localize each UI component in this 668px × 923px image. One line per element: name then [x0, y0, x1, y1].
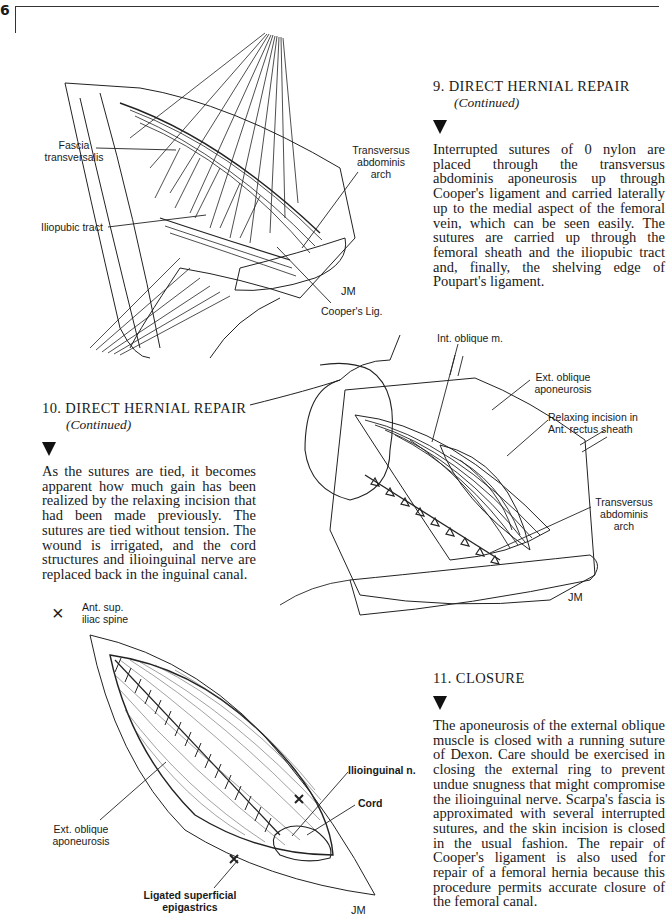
- section-11: 11. CLOSURE The aponeurosis of the exter…: [433, 670, 665, 909]
- leader-line: [488, 505, 593, 555]
- label-fascia-transversalis: Fascia transversalis: [38, 139, 110, 163]
- leader-line: [275, 245, 335, 305]
- label-text: Transversus abdominis arch: [352, 144, 409, 180]
- leader-line: [300, 170, 360, 250]
- section-10-body: As the sutures are tied, it becomes appa…: [42, 464, 256, 582]
- label-text: Ligated superficial epigastrics: [144, 889, 237, 913]
- section-11-heading: 11. CLOSURE: [433, 670, 665, 687]
- triangle-marker-icon: [433, 696, 447, 710]
- section-10: 10. DIRECT HERNIAL REPAIR (Continued) As…: [42, 400, 256, 582]
- label-cord: Cord: [358, 797, 383, 809]
- artist-signature: JM: [341, 285, 356, 297]
- label-text: Fascia transversalis: [45, 139, 104, 163]
- section-9-heading: 9. DIRECT HERNIAL REPAIR: [433, 78, 665, 95]
- label-text: Relaxing incision in Ant. rectus sheath: [548, 411, 638, 435]
- label-relaxing-incision: Relaxing incision in Ant. rectus sheath: [548, 411, 638, 435]
- artist-signature: JM: [568, 591, 583, 603]
- section-11-body: The aponeurosis of the external oblique …: [433, 718, 665, 909]
- label-text: Transversus abdominis arch: [595, 496, 652, 532]
- label-ext-oblique-aponeurosis-10: Ext. oblique aponeurosis: [529, 371, 597, 395]
- leader-line: [490, 378, 532, 412]
- asis-marker-icon: ×: [52, 603, 64, 623]
- label-transversus-abdominis-arch-10: Transversus abdominis arch: [590, 496, 658, 532]
- triangle-marker-icon: [433, 120, 447, 134]
- label-ant-sup-iliac-spine: Ant. sup. iliac spine: [82, 601, 128, 625]
- leader-line: [430, 344, 460, 444]
- leader-line: [212, 858, 240, 890]
- leader-line: [98, 760, 168, 822]
- label-ilioinguinal-n: Ilioinguinal n.: [348, 764, 416, 776]
- artist-signature: JM: [351, 904, 366, 916]
- section-number: 11.: [433, 670, 452, 686]
- triangle-marker-icon: [42, 442, 56, 456]
- leader-line: [505, 418, 550, 458]
- leader-line: [305, 803, 357, 837]
- section-9-subtitle: (Continued): [454, 95, 665, 111]
- section-10-subtitle: (Continued): [66, 417, 256, 433]
- label-ligated-superficial-epigastrics: Ligated superficial epigastrics: [130, 889, 250, 913]
- label-coopers-lig: Cooper's Lig.: [321, 305, 383, 317]
- leader-line: [108, 213, 208, 229]
- header-rule: [15, 6, 659, 7]
- section-9-body: Interrupted sutures of 0 nylon are place…: [433, 142, 665, 289]
- label-text: Ant. sup. iliac spine: [82, 601, 128, 625]
- leader-line: [96, 147, 176, 151]
- page-number: 6: [0, 2, 10, 18]
- section-number: 9.: [433, 78, 445, 94]
- section-title: CLOSURE: [456, 670, 525, 686]
- header-rule-vertical: [15, 6, 16, 33]
- section-title: DIRECT HERNIAL REPAIR: [449, 78, 630, 94]
- label-text: Ext. oblique aponeurosis: [534, 371, 591, 395]
- section-title: DIRECT HERNIAL REPAIR: [65, 400, 246, 416]
- section-9: 9. DIRECT HERNIAL REPAIR (Continued) Int…: [433, 78, 665, 289]
- section-number: 10.: [42, 400, 61, 416]
- label-ext-oblique-aponeurosis-11: Ext. oblique aponeurosis: [45, 823, 117, 847]
- label-iliopubic-tract: Iliopubic tract: [41, 221, 103, 233]
- section-10-heading: 10. DIRECT HERNIAL REPAIR: [42, 400, 256, 417]
- label-text: Ext. oblique aponeurosis: [52, 823, 109, 847]
- label-int-oblique: Int. oblique m.: [437, 332, 503, 344]
